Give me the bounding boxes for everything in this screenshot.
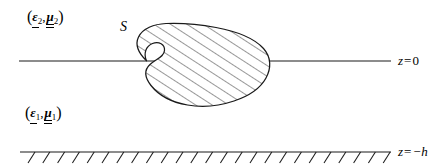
- medium-1-parameters: (ε1,μ1): [25, 105, 61, 124]
- interface-depth-value: 0: [412, 53, 419, 68]
- equals-sign: =: [403, 53, 412, 68]
- epsilon-2-symbol: ε2: [32, 10, 42, 28]
- ground-hatch-marks: [28, 152, 390, 163]
- ground-plane-depth-label: z=−h: [398, 145, 428, 158]
- ground-plane: [20, 152, 391, 163]
- figure-container: (ε2,μ2) (ε1,μ1) S z=0 z=−h: [0, 0, 444, 168]
- close-paren: ): [58, 8, 63, 25]
- epsilon-1-symbol: ε1: [30, 106, 40, 124]
- mu-2-symbol: μ2: [46, 10, 58, 28]
- scatterer-surface-label: S: [120, 20, 127, 34]
- close-paren: ): [56, 104, 61, 121]
- diagram-canvas: [0, 0, 444, 168]
- equals-sign: =: [403, 144, 412, 159]
- mu-1-symbol: μ1: [44, 106, 56, 124]
- medium-2-parameters: (ε2,μ2): [27, 9, 63, 28]
- scatterer-body: [120, 10, 290, 125]
- ground-plane-depth-value: −h: [412, 144, 427, 159]
- interface-depth-label: z=0: [398, 54, 419, 67]
